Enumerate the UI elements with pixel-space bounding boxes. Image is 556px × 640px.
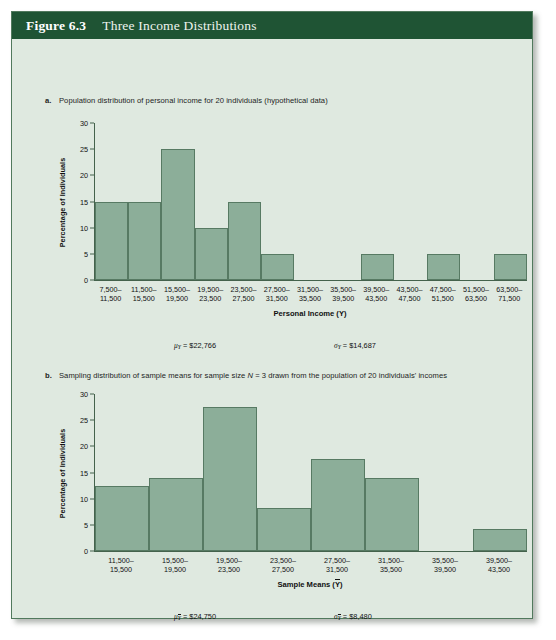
y-tick-label: 5: [84, 520, 88, 529]
figure-body: a. Population distribution of personal i…: [12, 39, 532, 618]
histogram-bar: [95, 486, 149, 551]
subfigure-b-caption: b. Sampling distribution of sample means…: [45, 371, 447, 380]
y-tick-label: 0: [84, 547, 88, 556]
figure-header: Figure 6.3 Three Income Distributions: [12, 12, 532, 39]
x-tick-label: 11,500–15,500: [127, 285, 160, 304]
chart-b-axis-title-var: Y: [335, 580, 340, 589]
x-tick-label: 15,500–19,500: [160, 285, 193, 304]
y-tick-label: 15: [80, 197, 88, 206]
x-tick-label: 23,500–27,500: [256, 556, 310, 575]
histogram-bar: [473, 529, 527, 551]
x-tick-label: 23,500–27,500: [227, 285, 260, 304]
chart-a-mean-value: = $22,766: [183, 341, 216, 350]
x-tick-label: 51,500–63,500: [459, 285, 492, 304]
chart-b-bars: [95, 394, 527, 551]
chart-b-axis-title: Sample Means (Y): [94, 580, 526, 589]
x-tick-label: 19,500–23,500: [194, 285, 227, 304]
x-tick-label: 11,500–15,500: [94, 556, 148, 575]
chart-a-axis-area: 051015202530: [72, 123, 528, 281]
y-tick-label: 30: [80, 390, 88, 399]
subfigure-b-caption-text: Sampling distribution of sample means fo…: [59, 371, 447, 380]
histogram-bar: [161, 149, 194, 280]
chart-a-y-ticks: 051015202530: [72, 123, 94, 280]
chart-b-sd-subscript: Y: [338, 615, 341, 621]
histogram-bar: [311, 459, 365, 551]
x-tick-label: 31,500–35,500: [293, 285, 326, 304]
subfigure-b-marker: b.: [45, 371, 59, 380]
chart-b-ylabel-text: Percentage of Individuals: [59, 428, 68, 518]
chart-b-x-labels: 11,500–15,50015,500–19,50019,500–23,5002…: [94, 556, 526, 575]
subfigure-a-caption: a. Population distribution of personal i…: [45, 96, 328, 105]
x-tick-label: 35,500–39,500: [418, 556, 472, 575]
histogram-bar: [365, 478, 419, 551]
chart-b-plot: [94, 394, 527, 552]
x-tick-label: 15,500–19,500: [148, 556, 202, 575]
chart-b-mean-stat: μY = $24,750: [174, 612, 216, 621]
x-tick-label: 27,500–31,500: [310, 556, 364, 575]
chart-b-ylabel: Percentage of Individuals: [56, 394, 70, 552]
subfigure-b-caption-pre: Sampling distribution of sample means fo…: [59, 371, 247, 380]
chart-a-mean-stat: μY = $22,766: [174, 341, 216, 350]
figure-title: Three Income Distributions: [102, 18, 256, 34]
x-tick-label: 63,500–71,500: [493, 285, 526, 304]
y-tick-label: 25: [80, 145, 88, 154]
x-tick-label: 27,500–31,500: [260, 285, 293, 304]
chart-b-sd-stat: σY = $8,480: [334, 612, 372, 621]
histogram-bar: [203, 407, 257, 551]
x-tick-label: 31,500–35,500: [364, 556, 418, 575]
y-tick-label: 10: [80, 223, 88, 232]
y-tick-label: 30: [80, 119, 88, 128]
y-tick-label: 15: [80, 468, 88, 477]
y-tick-label: 20: [80, 171, 88, 180]
chart-a-axis-title: Personal Income (Y): [94, 309, 526, 318]
chart-a-ylabel: Percentage of Individuals: [56, 123, 70, 281]
histogram-bar: [149, 478, 203, 551]
chart-b-stats: μY = $24,750 σY = $8,480: [174, 612, 372, 621]
histogram-bar: [95, 202, 128, 281]
histogram-bar: [361, 254, 394, 280]
chart-a-sd-stat: σY = $14,687: [334, 341, 376, 350]
chart-b-y-ticks: 051015202530: [72, 394, 94, 551]
y-tick-label: 20: [80, 442, 88, 451]
y-tick-label: 10: [80, 494, 88, 503]
histogram-bar: [261, 254, 294, 280]
chart-b-mean-subscript: Y: [178, 615, 181, 621]
figure-number: Figure 6.3: [26, 18, 86, 34]
chart-b-sd-value: = $8,480: [343, 612, 372, 621]
x-tick-label: 39,500–43,500: [472, 556, 526, 575]
chart-a-plot-wrap: 051015202530 7,500–11,50011,500–15,50015…: [72, 123, 528, 281]
histogram-bar: [195, 228, 228, 280]
histogram-bar: [427, 254, 460, 280]
chart-a-sd-value: = $14,687: [343, 341, 376, 350]
x-tick-label: 7,500–11,500: [94, 285, 127, 304]
chart-b-axis-area: 051015202530: [72, 394, 528, 552]
chart-a-stats: μY = $22,766 σY = $14,687: [174, 341, 376, 350]
histogram-bar: [128, 202, 161, 281]
chart-a-bars: [95, 123, 527, 280]
chart-b-axis-title-pre: Sample Means (: [277, 580, 334, 589]
chart-b-axis-title-post: ): [340, 580, 343, 589]
histogram-bar: [257, 508, 311, 551]
x-tick-label: 43,500–47,500: [393, 285, 426, 304]
subfigure-a-marker: a.: [45, 96, 59, 105]
chart-a-ylabel-text: Percentage of Individuals: [59, 157, 68, 247]
chart-b-plot-wrap: 051015202530 11,500–15,50015,500–19,5001…: [72, 394, 528, 552]
x-tick-label: 19,500–23,500: [202, 556, 256, 575]
histogram-bar: [494, 254, 527, 280]
figure-page: Figure 6.3 Three Income Distributions a.…: [0, 0, 556, 640]
subfigure-a-caption-text: Population distribution of personal inco…: [59, 96, 328, 105]
subfigure-b-caption-post: = 3 drawn from the population of 20 indi…: [253, 371, 447, 380]
y-tick-label: 0: [84, 276, 88, 285]
histogram-bar: [228, 202, 261, 281]
x-tick-label: 39,500–43,500: [360, 285, 393, 304]
x-tick-label: 35,500–39,500: [327, 285, 360, 304]
figure-panel: Figure 6.3 Three Income Distributions a.…: [11, 11, 533, 619]
chart-a-mean-subscript: Y: [178, 344, 181, 350]
chart-a-x-labels: 7,500–11,50011,500–15,50015,500–19,50019…: [94, 285, 526, 304]
chart-b-mean-value: = $24,750: [183, 612, 216, 621]
chart-a-plot: [94, 123, 527, 281]
chart-a-sd-subscript: Y: [338, 344, 341, 350]
x-tick-label: 47,500–51,500: [426, 285, 459, 304]
y-tick-label: 5: [84, 249, 88, 258]
y-tick-label: 25: [80, 416, 88, 425]
